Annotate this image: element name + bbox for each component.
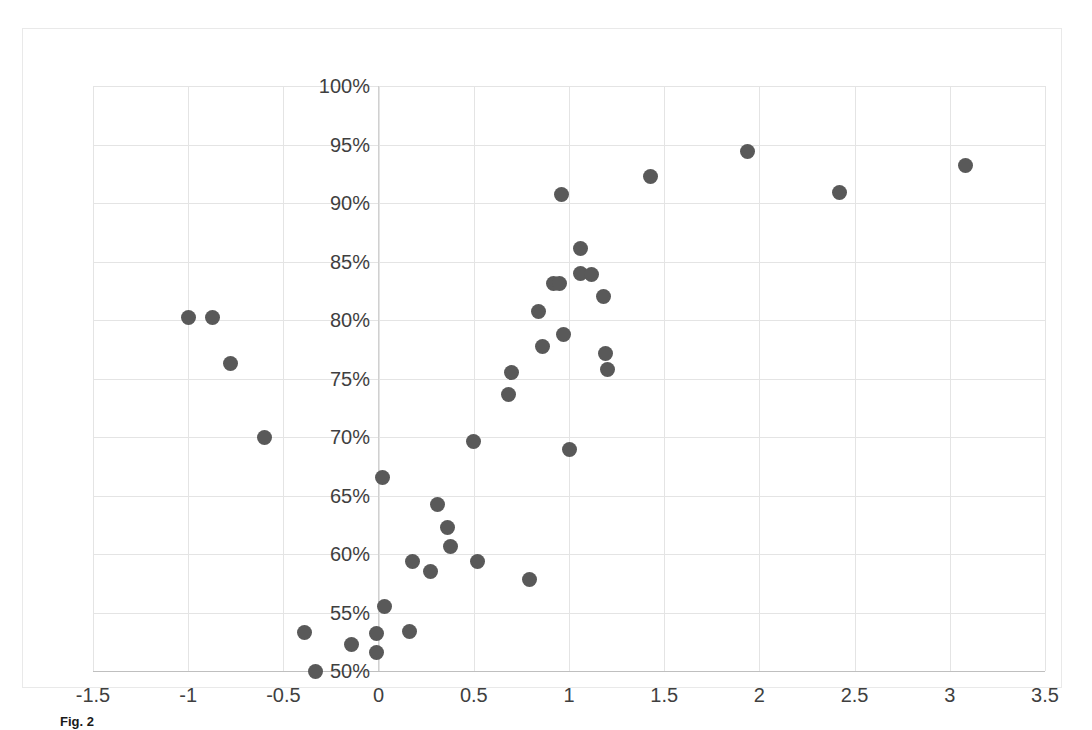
figure-caption: Fig. 2 (60, 714, 1040, 730)
x-axis-tick-label: -1 (179, 684, 197, 707)
scatter-point (556, 327, 571, 342)
scatter-point (181, 310, 196, 325)
x-axis-tick-label: 2.5 (841, 684, 869, 707)
scatter-point (377, 599, 392, 614)
scatter-point (375, 470, 390, 485)
x-axis-tick-label: 3 (944, 684, 955, 707)
gridline-horizontal (93, 613, 1045, 614)
y-axis-tick-label: 55% (330, 601, 370, 624)
scatter-point (573, 241, 588, 256)
scatter-point (205, 310, 220, 325)
scatter-point (344, 637, 359, 652)
scatter-point (369, 645, 384, 660)
y-axis-tick-label: 100% (319, 75, 370, 98)
x-axis-tick-label: -0.5 (266, 684, 300, 707)
y-axis-tick-label: 80% (330, 309, 370, 332)
gridline-horizontal (93, 379, 1045, 380)
x-axis-tick-label: 0.5 (460, 684, 488, 707)
scatter-point (470, 554, 485, 569)
scatter-point (554, 187, 569, 202)
figure-container: 50%55%60%65%70%75%80%85%90%95%100% -1.5-… (0, 0, 1092, 730)
scatter-point (223, 356, 238, 371)
scatter-point (466, 434, 481, 449)
x-axis-tick-label: 2 (754, 684, 765, 707)
scatter-point (257, 430, 272, 445)
scatter-point (440, 520, 455, 535)
scatter-point (535, 339, 550, 354)
x-axis-tick-label: 1 (563, 684, 574, 707)
gridline-horizontal (93, 437, 1045, 438)
gridline-horizontal (93, 496, 1045, 497)
gridline-horizontal (93, 86, 1045, 87)
scatter-point (430, 497, 445, 512)
y-axis-tick-label: 85% (330, 250, 370, 273)
x-axis-tick-label: 3.5 (1031, 684, 1059, 707)
scatter-point (423, 564, 438, 579)
gridline-horizontal (93, 554, 1045, 555)
scatter-point (443, 539, 458, 554)
y-axis-tick-label: 75% (330, 367, 370, 390)
scatter-point (740, 144, 755, 159)
gridline-horizontal (93, 145, 1045, 146)
scatter-point (598, 346, 613, 361)
scatter-point (369, 626, 384, 641)
scatter-point (562, 442, 577, 457)
gridline-horizontal (93, 203, 1045, 204)
gridline-vertical (1045, 86, 1046, 671)
gridline-horizontal (93, 320, 1045, 321)
scatter-point (643, 169, 658, 184)
x-axis-line (93, 671, 1045, 672)
gridline-horizontal (93, 262, 1045, 263)
scatter-point (958, 158, 973, 173)
y-axis-tick-label: 90% (330, 192, 370, 215)
scatter-point (402, 624, 417, 639)
y-axis-tick-label: 50% (330, 660, 370, 683)
scatter-point (308, 664, 323, 679)
scatter-point (552, 276, 567, 291)
scatter-point (531, 304, 546, 319)
plot-area: 50%55%60%65%70%75%80%85%90%95%100% -1.5-… (93, 86, 1045, 671)
scatter-point (832, 185, 847, 200)
y-axis-tick-label: 65% (330, 484, 370, 507)
scatter-point (405, 554, 420, 569)
x-axis-tick-label: 0 (373, 684, 384, 707)
chart-frame: 50%55%60%65%70%75%80%85%90%95%100% -1.5-… (22, 28, 1062, 688)
x-axis-tick-label: -1.5 (76, 684, 110, 707)
scatter-point (501, 387, 516, 402)
scatter-point (596, 289, 611, 304)
y-axis-tick-label: 70% (330, 426, 370, 449)
scatter-point (522, 572, 537, 587)
scatter-point (297, 625, 312, 640)
y-axis-tick-label: 60% (330, 543, 370, 566)
scatter-point (600, 362, 615, 377)
y-axis-tick-label: 95% (330, 133, 370, 156)
y-axis-line (378, 86, 379, 672)
x-axis-tick-label: 1.5 (650, 684, 678, 707)
caption-label: Fig. 2 (60, 714, 94, 729)
scatter-point (584, 267, 599, 282)
